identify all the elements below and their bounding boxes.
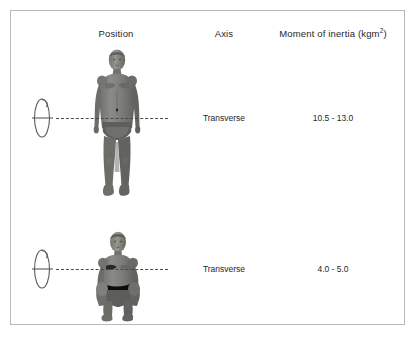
axis-label: Transverse — [179, 113, 269, 123]
axis-label: Transverse — [179, 264, 269, 274]
inertia-header-paren: ) — [383, 28, 386, 39]
moment-of-inertia-table-panel: Position Axis Moment of inertia (kgm2) — [10, 10, 405, 325]
transverse-axis-line — [56, 118, 168, 119]
inertia-value: 10.5 - 13.0 — [263, 113, 403, 123]
table-row: Transverse 4.0 - 5.0 — [11, 216, 406, 321]
tucked-body-figure — [81, 230, 153, 322]
column-header-axis: Axis — [179, 28, 269, 39]
column-header-moment-of-inertia: Moment of inertia (kgm2) — [263, 28, 403, 39]
standing-body-figure — [81, 48, 153, 198]
inertia-header-text: Moment of inertia (kgm — [279, 28, 379, 39]
column-header-position: Position — [41, 28, 191, 39]
inertia-value: 4.0 - 5.0 — [263, 264, 403, 274]
transverse-axis-line — [56, 269, 168, 270]
table-row: Transverse 10.5 - 13.0 — [11, 46, 406, 206]
